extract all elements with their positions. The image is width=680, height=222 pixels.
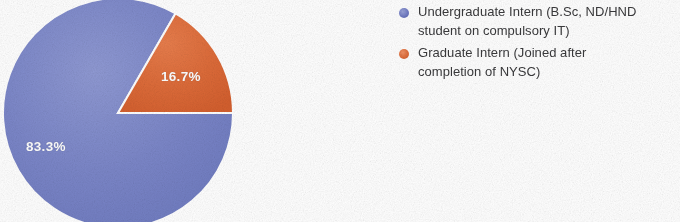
- legend-label-line-1: Graduate Intern (Joined after: [418, 43, 680, 62]
- pie-chart-plot-area: 83.3% 16.7%: [0, 0, 250, 222]
- pie-chart-svg: [0, 0, 250, 222]
- legend-label-line-1: Undergraduate Intern (B.Sc, ND/HND: [418, 2, 680, 21]
- pie-chart-figure: 83.3% 16.7% Undergraduate Intern (B.Sc, …: [0, 0, 680, 222]
- legend-label-line-2: completion of NYSC): [418, 62, 680, 81]
- legend-label-line-2: student on compulsory IT): [418, 21, 680, 40]
- legend-label-undergraduate-intern: Undergraduate Intern (B.Sc, ND/HND stude…: [418, 2, 680, 40]
- legend-label-graduate-intern: Graduate Intern (Joined after completion…: [418, 43, 680, 81]
- pie-slice-label-graduate-intern: 16.7%: [161, 69, 201, 84]
- legend-item-undergraduate-intern[interactable]: Undergraduate Intern (B.Sc, ND/HND stude…: [396, 2, 680, 40]
- chart-legend: Undergraduate Intern (B.Sc, ND/HND stude…: [396, 2, 680, 84]
- pie-slice-label-undergraduate-intern: 83.3%: [26, 139, 66, 154]
- legend-swatch-icon-graduate-intern: [399, 49, 409, 59]
- legend-item-graduate-intern[interactable]: Graduate Intern (Joined after completion…: [396, 43, 680, 81]
- legend-swatch-icon-undergraduate-intern: [399, 8, 409, 18]
